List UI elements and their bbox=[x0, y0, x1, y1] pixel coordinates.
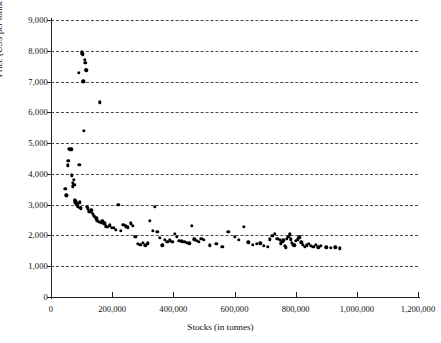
gridline-y bbox=[51, 51, 418, 52]
x-tick-mark bbox=[51, 292, 52, 297]
scatter-point bbox=[151, 229, 154, 232]
scatter-point bbox=[170, 240, 173, 243]
y-axis-tick-labels: 01,0002,0003,0004,0005,0006,0007,0008,00… bbox=[0, 0, 48, 343]
scatter-point bbox=[153, 205, 156, 208]
scatter-point bbox=[78, 201, 81, 204]
x-tick-label: 400,000 bbox=[159, 304, 187, 314]
scatter-point bbox=[98, 100, 101, 103]
y-tick-mark bbox=[47, 112, 52, 113]
x-tick-label: 1,000,000 bbox=[340, 304, 374, 314]
y-tick-label: 3,000 bbox=[28, 200, 48, 210]
scatter-point bbox=[247, 241, 250, 244]
scatter-point bbox=[284, 245, 287, 248]
scatter-point bbox=[325, 245, 328, 248]
scatter-point bbox=[298, 236, 301, 239]
scatter-point bbox=[197, 240, 200, 243]
x-tick-label: 0 bbox=[49, 304, 53, 314]
x-tick-label: 800,000 bbox=[282, 304, 310, 314]
scatter-point bbox=[148, 219, 151, 222]
scatter-point bbox=[65, 194, 68, 197]
scatter-point bbox=[334, 245, 337, 248]
gridline-y bbox=[51, 266, 418, 267]
scatter-point bbox=[146, 242, 149, 245]
plot-area bbox=[51, 20, 418, 297]
scatter-point bbox=[114, 228, 117, 231]
y-tick-mark bbox=[47, 297, 52, 298]
y-tick-mark bbox=[47, 266, 52, 267]
y-tick-label: 7,000 bbox=[28, 77, 48, 87]
scatter-point bbox=[319, 244, 322, 247]
gridline-y bbox=[51, 20, 418, 21]
y-tick-label: 4,000 bbox=[28, 169, 48, 179]
scatter-point bbox=[268, 237, 271, 240]
y-tick-label: 5,000 bbox=[28, 138, 48, 148]
scatter-point bbox=[190, 224, 193, 227]
gridline-y bbox=[51, 174, 418, 175]
y-tick-label: 6,000 bbox=[28, 107, 48, 117]
scatter-point bbox=[221, 245, 224, 248]
gridline-y bbox=[51, 205, 418, 206]
scatter-point bbox=[66, 164, 69, 167]
x-tick-label: 1,200,000 bbox=[401, 304, 435, 314]
x-tick-mark bbox=[173, 292, 174, 297]
x-tick-label: 600,000 bbox=[221, 304, 249, 314]
y-tick-label: 2,000 bbox=[28, 230, 48, 240]
scatter-point bbox=[85, 69, 88, 72]
scatter-point bbox=[67, 159, 70, 162]
y-tick-label: 9,000 bbox=[28, 15, 48, 25]
scatter-point bbox=[266, 245, 269, 248]
x-tick-mark bbox=[418, 292, 419, 297]
x-axis-line bbox=[51, 297, 420, 298]
y-tick-mark bbox=[47, 20, 52, 21]
y-tick-mark bbox=[47, 82, 52, 83]
gridline-y bbox=[51, 82, 418, 83]
x-tick-mark bbox=[357, 292, 358, 297]
scatter-point bbox=[79, 207, 82, 210]
y-tick-mark bbox=[47, 143, 52, 144]
scatter-plot-figure: 01,0002,0003,0004,0005,0006,0007,0008,00… bbox=[0, 0, 441, 343]
x-tick-mark bbox=[112, 292, 113, 297]
scatter-point bbox=[208, 244, 211, 247]
y-tick-mark bbox=[47, 205, 52, 206]
scatter-point bbox=[69, 148, 72, 151]
scatter-point bbox=[81, 53, 84, 56]
gridline-y bbox=[51, 112, 418, 113]
scatter-point bbox=[227, 230, 230, 233]
scatter-point bbox=[188, 241, 191, 244]
scatter-point bbox=[131, 224, 134, 227]
scatter-point bbox=[126, 226, 129, 229]
y-tick-mark bbox=[47, 235, 52, 236]
scatter-point bbox=[282, 239, 285, 242]
scatter-point bbox=[82, 129, 85, 132]
scatter-point bbox=[237, 238, 240, 241]
scatter-point bbox=[202, 238, 205, 241]
scatter-point bbox=[214, 242, 217, 245]
y-axis-line bbox=[51, 18, 52, 299]
scatter-point bbox=[119, 229, 122, 232]
scatter-point bbox=[84, 61, 87, 64]
scatter-point bbox=[64, 187, 67, 190]
scatter-point bbox=[77, 71, 80, 74]
y-tick-label: 1,000 bbox=[28, 261, 48, 271]
gridline-y bbox=[51, 143, 418, 144]
scatter-point bbox=[158, 236, 161, 239]
x-tick-mark bbox=[235, 292, 236, 297]
scatter-point bbox=[72, 178, 75, 181]
scatter-point bbox=[338, 247, 341, 250]
y-tick-mark bbox=[47, 174, 52, 175]
scatter-point bbox=[117, 203, 120, 206]
x-axis-title: Stocks (in tonnes) bbox=[0, 322, 441, 332]
scatter-point bbox=[242, 225, 245, 228]
x-tick-label: 200,000 bbox=[98, 304, 126, 314]
scatter-point bbox=[70, 174, 73, 177]
scatter-point bbox=[156, 230, 159, 233]
scatter-point bbox=[73, 183, 76, 186]
y-tick-label: 8,000 bbox=[28, 46, 48, 56]
y-axis-title: Price (US$ per tonne) bbox=[0, 0, 4, 117]
scatter-point bbox=[175, 235, 178, 238]
scatter-point bbox=[233, 235, 236, 238]
scatter-point bbox=[161, 244, 164, 247]
scatter-point bbox=[293, 244, 296, 247]
y-tick-mark bbox=[47, 51, 52, 52]
x-tick-mark bbox=[296, 292, 297, 297]
